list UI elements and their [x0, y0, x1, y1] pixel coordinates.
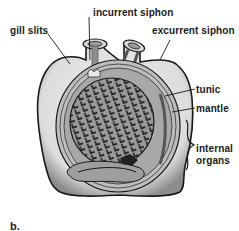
- label-gill-slits: gill slits: [10, 25, 48, 36]
- label-incurrent-siphon: incurrent siphon: [93, 7, 174, 18]
- label-internal-organs-1: internal: [196, 143, 233, 154]
- label-internal-organs-2: organs: [196, 155, 230, 166]
- label-mantle: mantle: [196, 103, 229, 114]
- label-excurrent-siphon: excurrent siphon: [152, 25, 235, 36]
- label-tunic: tunic: [196, 84, 220, 95]
- panel-label: b.: [10, 220, 20, 231]
- pharynx: [70, 78, 154, 166]
- tunicate-diagram: incurrent siphon gill slits excurrent si…: [0, 0, 239, 231]
